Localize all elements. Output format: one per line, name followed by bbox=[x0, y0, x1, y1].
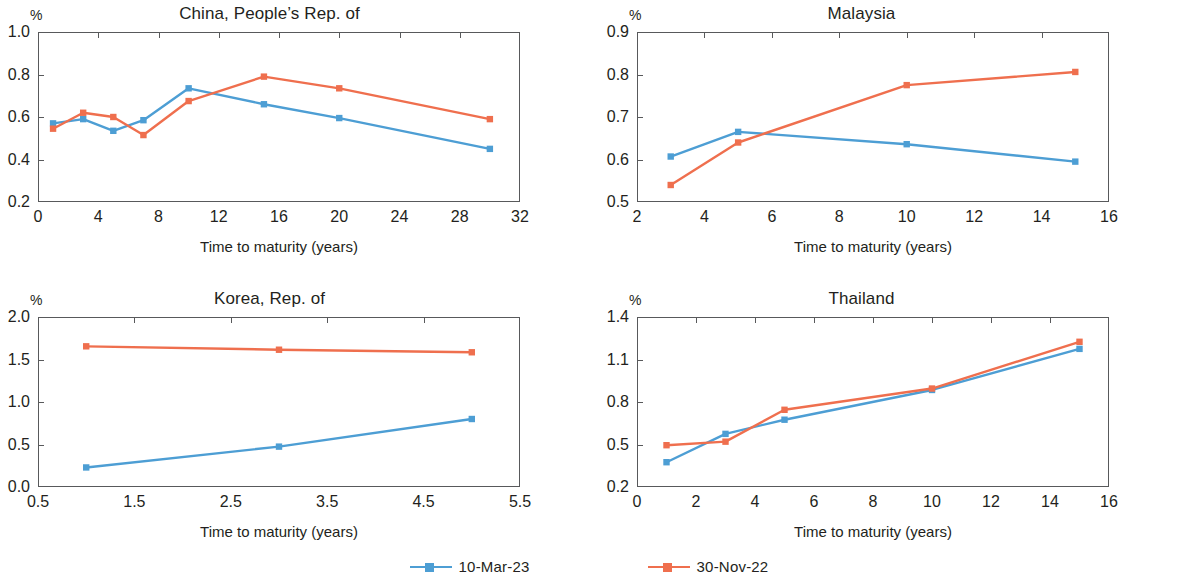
x-tick-label: 10 bbox=[898, 208, 916, 226]
chart-panel-thailand: Thailand % 0.20.50.81.11.40246810121416 … bbox=[589, 285, 1178, 555]
data-point-marker bbox=[668, 182, 674, 188]
plot-svg-china bbox=[38, 32, 520, 202]
data-point-marker bbox=[904, 82, 910, 88]
x-tick-label: 6 bbox=[810, 493, 819, 511]
series-line-30-Nov-22 bbox=[671, 72, 1076, 185]
y-tick-label: 0.8 bbox=[607, 393, 629, 411]
x-axis-title-korea: Time to maturity (years) bbox=[38, 523, 520, 540]
x-tick-mark bbox=[932, 317, 933, 323]
x-tick-label: 16 bbox=[1100, 208, 1118, 226]
data-point-marker bbox=[110, 128, 116, 134]
x-tick-mark bbox=[1042, 32, 1043, 38]
data-point-marker bbox=[1076, 346, 1082, 352]
y-unit-label-thailand: % bbox=[629, 293, 641, 307]
plot-area-thailand: 0.20.50.81.11.40246810121416 bbox=[637, 317, 1109, 487]
data-point-marker bbox=[83, 464, 89, 470]
y-tick-label: 0.8 bbox=[8, 66, 30, 84]
y-tick-label: 1.1 bbox=[607, 351, 629, 369]
data-point-marker bbox=[140, 132, 146, 138]
legend-label-1: 30-Nov-22 bbox=[697, 558, 769, 575]
legend-swatch-icon-0 bbox=[410, 561, 452, 573]
y-tick-mark bbox=[38, 75, 44, 76]
y-tick-mark bbox=[637, 360, 643, 361]
y-tick-label: 1.0 bbox=[8, 393, 30, 411]
x-tick-label: 4 bbox=[700, 208, 709, 226]
y-tick-label: 0.5 bbox=[8, 436, 30, 454]
x-axis-title-malaysia: Time to maturity (years) bbox=[637, 238, 1109, 255]
y-unit-label-korea: % bbox=[30, 293, 42, 307]
x-tick-mark bbox=[991, 317, 992, 323]
x-tick-mark bbox=[327, 317, 328, 323]
x-tick-label: 14 bbox=[1033, 208, 1051, 226]
y-tick-mark bbox=[38, 160, 44, 161]
x-tick-label: 6 bbox=[767, 208, 776, 226]
x-tick-label: 24 bbox=[391, 208, 409, 226]
data-point-marker bbox=[929, 385, 935, 391]
y-tick-label: 1.4 bbox=[607, 308, 629, 326]
x-tick-mark bbox=[134, 317, 135, 323]
x-tick-label: 8 bbox=[154, 208, 163, 226]
x-tick-mark bbox=[696, 317, 697, 323]
x-tick-label: 10 bbox=[923, 493, 941, 511]
data-point-marker bbox=[185, 85, 191, 91]
data-point-marker bbox=[663, 459, 669, 465]
x-tick-label: 2 bbox=[692, 493, 701, 511]
x-tick-mark bbox=[814, 317, 815, 323]
x-tick-mark bbox=[839, 32, 840, 38]
data-point-marker bbox=[261, 101, 267, 107]
data-point-marker bbox=[487, 116, 493, 122]
x-tick-label: 14 bbox=[1041, 493, 1059, 511]
plot-svg-malaysia bbox=[637, 32, 1109, 202]
chart-panel-malaysia: Malaysia % 0.50.60.70.80.9246810121416 T… bbox=[589, 0, 1178, 270]
x-tick-label: 0 bbox=[633, 493, 642, 511]
x-tick-label: 12 bbox=[982, 493, 1000, 511]
chart-legend: 10-Mar-23 30-Nov-22 bbox=[0, 558, 1178, 575]
x-tick-mark bbox=[772, 32, 773, 38]
data-point-marker bbox=[469, 349, 475, 355]
data-point-marker bbox=[735, 129, 741, 135]
data-point-marker bbox=[336, 115, 342, 121]
x-tick-label: 16 bbox=[1100, 493, 1118, 511]
data-point-marker bbox=[781, 407, 787, 413]
x-tick-mark bbox=[755, 317, 756, 323]
x-tick-label: 12 bbox=[210, 208, 228, 226]
x-tick-label: 4.5 bbox=[412, 493, 434, 511]
y-unit-label-malaysia: % bbox=[629, 8, 641, 22]
y-tick-label: 0.9 bbox=[607, 23, 629, 41]
y-tick-mark bbox=[38, 117, 44, 118]
x-tick-label: 8 bbox=[869, 493, 878, 511]
data-point-marker bbox=[140, 117, 146, 123]
data-point-marker bbox=[336, 85, 342, 91]
x-tick-mark bbox=[873, 317, 874, 323]
y-tick-label: 0.6 bbox=[607, 151, 629, 169]
y-tick-label: 1.5 bbox=[8, 351, 30, 369]
x-tick-label: 2.5 bbox=[220, 493, 242, 511]
y-unit-label-china: % bbox=[30, 8, 42, 22]
x-tick-mark bbox=[159, 32, 160, 38]
data-point-marker bbox=[261, 73, 267, 79]
x-tick-label: 5.5 bbox=[509, 493, 531, 511]
y-tick-label: 0.4 bbox=[8, 151, 30, 169]
data-point-marker bbox=[276, 347, 282, 353]
legend-item-1[interactable]: 30-Nov-22 bbox=[648, 558, 769, 575]
x-tick-label: 2 bbox=[633, 208, 642, 226]
x-tick-label: 3.5 bbox=[316, 493, 338, 511]
y-tick-mark bbox=[637, 75, 643, 76]
y-tick-mark bbox=[637, 445, 643, 446]
data-point-marker bbox=[469, 416, 475, 422]
y-tick-mark bbox=[637, 117, 643, 118]
data-point-marker bbox=[83, 343, 89, 349]
x-tick-label: 12 bbox=[965, 208, 983, 226]
y-tick-label: 0.5 bbox=[607, 436, 629, 454]
x-tick-label: 28 bbox=[451, 208, 469, 226]
data-point-marker bbox=[80, 116, 86, 122]
plot-area-china: 0.20.40.60.81.0048121620242832 bbox=[38, 32, 520, 202]
x-tick-label: 4 bbox=[94, 208, 103, 226]
y-tick-mark bbox=[38, 360, 44, 361]
legend-item-0[interactable]: 10-Mar-23 bbox=[410, 558, 530, 575]
x-tick-label: 16 bbox=[270, 208, 288, 226]
y-tick-label: 0.2 bbox=[8, 193, 30, 211]
data-point-marker bbox=[1072, 69, 1078, 75]
legend-label-0: 10-Mar-23 bbox=[459, 558, 530, 575]
panel-title-thailand: Thailand bbox=[567, 289, 1156, 309]
